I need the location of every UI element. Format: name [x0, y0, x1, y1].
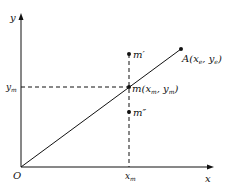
line-OA — [21, 49, 181, 167]
tick-ym-label: ym — [5, 82, 17, 93]
point-m-prime-label: m′ — [133, 49, 145, 60]
x-axis-arrow-icon — [207, 165, 214, 170]
point-m-double-prime — [127, 110, 131, 114]
point-m-label: m(xm, ym) — [132, 83, 178, 95]
point-A — [179, 47, 183, 51]
point-m — [127, 85, 131, 89]
interpolation-diagram: y x O ym xm A(xe, ye) m(xm, ym) m′ m″ — [0, 0, 225, 189]
x-axis-label: x — [205, 173, 211, 184]
point-m-prime — [127, 52, 131, 56]
point-A-label: A(xe, ye) — [181, 53, 222, 65]
point-m-double-prime-label: m″ — [133, 107, 146, 118]
tick-xm-label: xm — [125, 171, 136, 182]
origin-label: O — [13, 170, 21, 181]
y-axis-label: y — [9, 12, 16, 23]
y-axis-arrow-icon — [19, 13, 24, 20]
